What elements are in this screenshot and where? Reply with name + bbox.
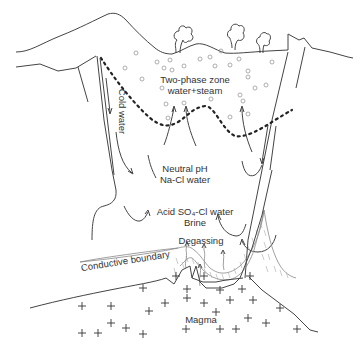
topography-upper xyxy=(16,13,288,54)
fault-right-upper xyxy=(296,47,305,88)
channel-left-inner xyxy=(100,58,114,175)
label-acid-line2: Brine xyxy=(145,217,245,228)
basement-right xyxy=(249,277,318,332)
channel-left-outer xyxy=(92,56,116,240)
label-neutral-ph: Neutral pH Na-Cl water xyxy=(145,163,225,185)
label-degassing: Degassing xyxy=(166,235,236,246)
label-cold-water: Cold water xyxy=(117,82,128,142)
right-escarpment xyxy=(288,34,353,58)
conductive-boundary-bottom xyxy=(30,266,243,308)
fault-left xyxy=(78,67,88,102)
fault-right-main xyxy=(245,52,288,278)
label-neutral-line2: Na-Cl water xyxy=(145,174,225,185)
steam-plumes xyxy=(174,24,270,53)
fault-right-inner xyxy=(270,126,276,170)
label-two-phase-line1: Two-phase zone xyxy=(150,74,240,85)
two-phase-boundary xyxy=(101,58,292,136)
label-two-phase-line2: water+steam xyxy=(150,85,240,96)
label-neutral-line1: Neutral pH xyxy=(145,163,225,174)
label-magma: Magma xyxy=(176,314,226,325)
label-acid-water: Acid SO₄-Cl water Brine xyxy=(145,206,245,228)
magma-crosses xyxy=(78,272,301,338)
topography-lower-left xyxy=(16,56,96,71)
label-acid-line1: Acid SO₄-Cl water xyxy=(145,206,245,217)
label-two-phase-zone: Two-phase zone water+steam xyxy=(150,74,240,96)
